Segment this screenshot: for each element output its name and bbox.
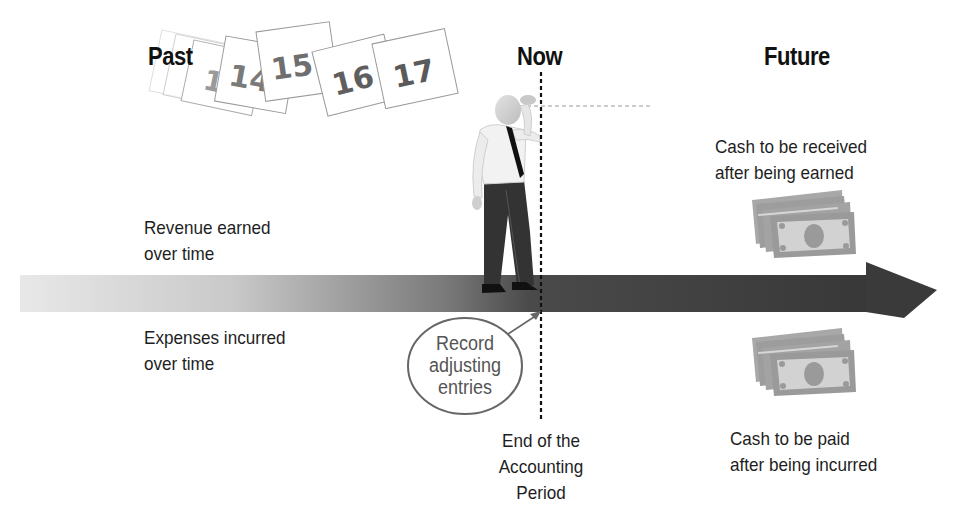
callout-line2: adjusting <box>416 354 515 376</box>
revenue-label-line2: over time <box>144 241 270 267</box>
cash-paid-line1: Cash to be paid <box>730 426 877 452</box>
heading-future: Future <box>764 42 830 71</box>
heading-past: Past <box>148 42 193 71</box>
svg-text:15: 15 <box>269 47 315 87</box>
cash-stack-paid-icon <box>752 328 856 396</box>
timeline-arrow-icon <box>20 262 937 318</box>
cash-paid-label: Cash to be paid after being incurred <box>730 426 877 478</box>
cash-received-label: Cash to be received after being earned <box>715 134 867 186</box>
revenue-label-line1: Revenue earned <box>144 215 270 241</box>
revenue-label: Revenue earned over time <box>144 215 270 267</box>
cash-stack-received-icon <box>752 190 856 258</box>
callout-line1: Record <box>416 332 515 354</box>
man-looking-ahead-icon <box>472 95 540 293</box>
period-end-line3: Period <box>474 480 609 506</box>
heading-now: Now <box>517 42 562 71</box>
expenses-label: Expenses incurred over time <box>144 325 286 377</box>
cash-paid-line2: after being incurred <box>730 452 877 478</box>
period-end-label: End of the Accounting Period <box>474 428 609 506</box>
cash-received-line2: after being earned <box>715 160 867 186</box>
callout-line3: entries <box>416 376 515 398</box>
cash-received-line1: Cash to be received <box>715 134 867 160</box>
expenses-label-line2: over time <box>144 351 286 377</box>
calendar-pages: 13 14 15 16 17 <box>149 22 458 116</box>
callout-text: Record adjusting entries <box>416 332 515 398</box>
period-end-line1: End of the <box>474 428 609 454</box>
expenses-label-line1: Expenses incurred <box>144 325 286 351</box>
period-end-line2: Accounting <box>474 454 609 480</box>
